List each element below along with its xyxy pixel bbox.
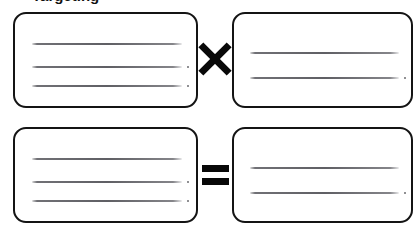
redacted-line <box>250 52 399 54</box>
cropped-title: Targeting <box>0 0 419 5</box>
redacted-line <box>32 181 182 183</box>
top-right-box[interactable] <box>232 12 413 108</box>
equals-stroke-b <box>202 178 229 185</box>
top-left-box[interactable] <box>13 12 198 108</box>
bottom-right-box[interactable] <box>232 127 413 223</box>
cropped-title-text: Targeting <box>0 0 419 5</box>
redacted-line <box>32 43 182 45</box>
equals-operator-icon <box>202 163 229 187</box>
top-left-box-lines <box>15 14 196 106</box>
redacted-line <box>250 77 399 79</box>
redacted-line <box>32 66 182 68</box>
diagram-canvas: Targeting <box>0 0 419 227</box>
times-operator-icon <box>198 42 232 76</box>
bottom-left-box[interactable] <box>13 127 198 223</box>
equals-stroke-a <box>202 165 229 172</box>
redacted-line <box>250 192 399 194</box>
bottom-right-box-lines <box>234 129 411 221</box>
bottom-left-box-lines <box>15 129 196 221</box>
redacted-line <box>250 167 399 169</box>
redacted-line <box>32 85 182 87</box>
redacted-line <box>32 158 182 160</box>
top-right-box-lines <box>234 14 411 106</box>
redacted-line <box>32 200 182 202</box>
